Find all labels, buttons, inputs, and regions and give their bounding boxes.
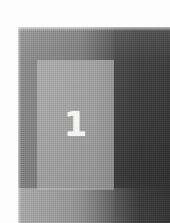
left-edge-fade	[16, 27, 21, 223]
top-edge-fade	[18, 25, 170, 31]
bottom-light-wash	[18, 188, 170, 223]
figure-numeral: 1	[37, 104, 114, 144]
scanned-figure-page: 1	[0, 0, 170, 223]
